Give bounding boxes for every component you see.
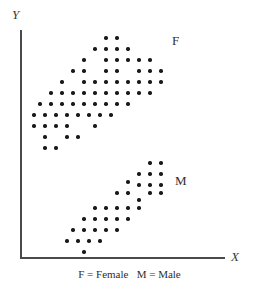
data-point (60, 102, 63, 105)
data-point (82, 250, 85, 253)
data-point (126, 206, 129, 209)
data-point (115, 91, 118, 94)
data-point (159, 191, 162, 194)
x-axis-label: X (231, 250, 239, 263)
plot-area: Y X F M (0, 0, 259, 289)
data-point (43, 135, 46, 138)
data-point (54, 113, 57, 116)
data-point (93, 91, 96, 94)
data-point (87, 113, 90, 116)
data-point (93, 228, 96, 231)
data-point (82, 91, 85, 94)
data-point (43, 146, 46, 149)
data-point (115, 217, 118, 220)
data-point (76, 113, 79, 116)
data-point (49, 91, 52, 94)
data-point (159, 183, 162, 186)
data-point (104, 91, 107, 94)
data-point (148, 161, 151, 164)
data-point (148, 172, 151, 175)
data-point (82, 80, 85, 83)
data-point (148, 91, 151, 94)
data-point (71, 102, 74, 105)
data-point (49, 102, 52, 105)
y-axis-line (20, 30, 22, 259)
data-point (126, 180, 129, 183)
data-point (104, 47, 107, 50)
data-point (65, 113, 68, 116)
data-point (76, 135, 79, 138)
data-point (115, 58, 118, 61)
data-point (98, 113, 101, 116)
data-point (126, 191, 129, 194)
data-point (104, 217, 107, 220)
data-point (115, 69, 118, 72)
cluster-label-male: M (175, 174, 187, 187)
data-point (115, 102, 118, 105)
data-point (54, 124, 57, 127)
data-point (159, 80, 162, 83)
data-point (104, 206, 107, 209)
data-point (137, 206, 140, 209)
data-point (148, 191, 151, 194)
data-point (60, 91, 63, 94)
data-point (115, 36, 118, 39)
x-axis-line (20, 257, 225, 259)
data-point (126, 217, 129, 220)
data-point (82, 217, 85, 220)
data-point (104, 80, 107, 83)
data-point (137, 198, 140, 201)
data-point (126, 91, 129, 94)
data-point (115, 191, 118, 194)
data-point (93, 47, 96, 50)
cluster-label-female: F (172, 34, 179, 47)
data-point (115, 80, 118, 83)
data-point (159, 172, 162, 175)
data-point (82, 58, 85, 61)
data-point (126, 47, 129, 50)
data-point (82, 228, 85, 231)
data-point (148, 69, 151, 72)
figure-caption: F = Female M = Male (0, 268, 259, 280)
data-point (126, 58, 129, 61)
data-point (76, 239, 79, 242)
data-point (93, 206, 96, 209)
data-point (71, 228, 74, 231)
data-point (65, 135, 68, 138)
data-point (148, 58, 151, 61)
data-point (104, 58, 107, 61)
data-point (137, 58, 140, 61)
data-point (115, 206, 118, 209)
data-point (137, 172, 140, 175)
data-point (98, 239, 101, 242)
data-point (137, 80, 140, 83)
data-point (43, 124, 46, 127)
data-point (115, 228, 118, 231)
data-point (137, 183, 140, 186)
data-point (82, 102, 85, 105)
data-point (65, 124, 68, 127)
data-point (87, 239, 90, 242)
scatter-plot-figure: Y X F M F = Female M = Male (0, 0, 259, 289)
data-point (126, 102, 129, 105)
data-point (104, 69, 107, 72)
data-point (126, 80, 129, 83)
data-point (93, 217, 96, 220)
data-point (159, 161, 162, 164)
data-point (60, 80, 63, 83)
data-point (115, 47, 118, 50)
data-point (71, 91, 74, 94)
data-point (104, 102, 107, 105)
data-point (104, 36, 107, 39)
data-point (82, 69, 85, 72)
data-point (43, 113, 46, 116)
data-point (71, 69, 74, 72)
data-point (93, 80, 96, 83)
data-point (137, 91, 140, 94)
data-point (54, 146, 57, 149)
data-point (109, 113, 112, 116)
data-point (38, 102, 41, 105)
data-point (137, 69, 140, 72)
data-point (104, 228, 107, 231)
data-point (93, 124, 96, 127)
